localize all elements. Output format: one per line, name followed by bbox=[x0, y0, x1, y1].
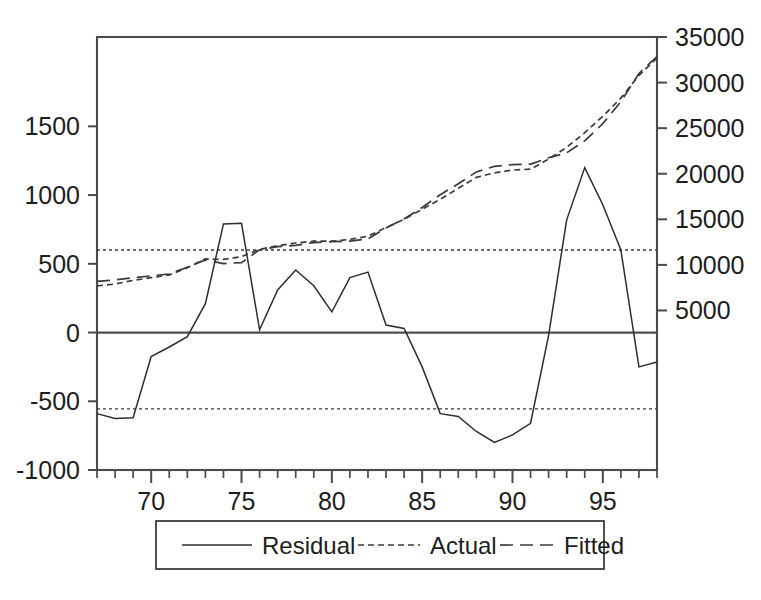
right-tick-label-10000: 10000 bbox=[675, 251, 745, 279]
reference-band-lines bbox=[97, 250, 657, 409]
x-tick-label-95: 95 bbox=[589, 487, 617, 515]
left-tick-label--500: -500 bbox=[30, 387, 80, 415]
chart-legend: ResidualActualFitted bbox=[156, 521, 624, 569]
left-tick-label-500: 500 bbox=[38, 250, 80, 278]
right-tick-label-30000: 30000 bbox=[675, 69, 745, 97]
x-tick-label-90: 90 bbox=[499, 487, 527, 515]
right-tick-label-5000: 5000 bbox=[675, 296, 731, 324]
left-axis-ticks bbox=[88, 126, 97, 470]
right-tick-label-15000: 15000 bbox=[675, 205, 745, 233]
series-line-residual bbox=[97, 168, 657, 443]
legend-label-fitted: Fitted bbox=[564, 532, 624, 559]
chart-container: 150010005000-500-1000 350003000025000200… bbox=[0, 0, 761, 600]
right-axis-tick-labels: 3500030000250002000015000100005000 bbox=[675, 23, 745, 324]
right-tick-label-20000: 20000 bbox=[675, 160, 745, 188]
left-tick-label-1500: 1500 bbox=[24, 112, 80, 140]
left-tick-label-1000: 1000 bbox=[24, 181, 80, 209]
x-tick-label-80: 80 bbox=[318, 487, 346, 515]
legend-label-residual: Residual bbox=[262, 532, 355, 559]
legend-item-actual[interactable]: Actual bbox=[358, 532, 497, 559]
plot-frame bbox=[97, 37, 657, 470]
series-line-fitted bbox=[97, 57, 657, 282]
legend-item-fitted[interactable]: Fitted bbox=[500, 532, 624, 559]
residual-actual-fitted-chart: 150010005000-500-1000 350003000025000200… bbox=[0, 0, 761, 600]
left-axis-tick-labels: 150010005000-500-1000 bbox=[16, 112, 80, 484]
x-tick-label-75: 75 bbox=[228, 487, 256, 515]
x-tick-label-70: 70 bbox=[137, 487, 165, 515]
left-tick-label-0: 0 bbox=[66, 319, 80, 347]
right-tick-label-35000: 35000 bbox=[675, 23, 745, 51]
x-tick-label-85: 85 bbox=[408, 487, 436, 515]
legend-label-actual: Actual bbox=[430, 532, 497, 559]
plot-box bbox=[97, 37, 657, 470]
right-axis-ticks bbox=[657, 37, 667, 310]
series-line-actual bbox=[97, 58, 657, 286]
x-axis-ticks bbox=[97, 470, 657, 483]
left-tick-label--1000: -1000 bbox=[16, 456, 80, 484]
right-tick-label-25000: 25000 bbox=[675, 114, 745, 142]
x-axis-tick-labels: 707580859095 bbox=[137, 487, 616, 515]
legend-item-residual[interactable]: Residual bbox=[182, 532, 355, 559]
